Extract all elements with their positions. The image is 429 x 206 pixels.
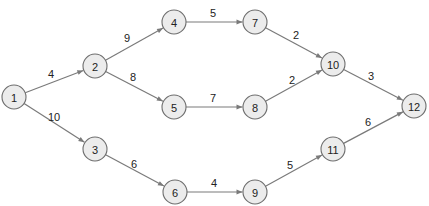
node-label: 2 [92, 61, 98, 73]
node-11: 11 [321, 137, 345, 161]
edge-weight-label: 5 [210, 7, 216, 19]
edge-weight-label: 4 [211, 177, 217, 189]
edge-weight-label: 8 [130, 71, 136, 83]
node-10: 10 [321, 52, 345, 76]
node-label: 3 [92, 144, 98, 156]
edge-2-to-4-arrow [105, 28, 163, 60]
edge-weight-label: 6 [365, 116, 371, 128]
node-label: 8 [252, 102, 258, 114]
edge-weight-label: 9 [124, 32, 130, 44]
node-label: 10 [327, 59, 339, 71]
node-label: 12 [408, 101, 420, 113]
node-12: 12 [402, 94, 426, 118]
edge-1-to-2-arrow [25, 70, 83, 92]
node-label: 4 [171, 17, 177, 29]
edge-11-to-12-arrow [344, 112, 403, 144]
node-4: 4 [162, 10, 186, 34]
edge-weight-label: 2 [293, 29, 299, 41]
node-label: 11 [327, 144, 338, 156]
node-7: 7 [243, 10, 267, 34]
edge-weight-label: 5 [287, 159, 293, 171]
node-label: 9 [252, 187, 258, 199]
node-label: 6 [172, 187, 178, 199]
network-diagram: 41098657422356 123456789101112 [0, 0, 429, 206]
edge-labels-group: 41098657422356 [48, 7, 374, 189]
node-8: 8 [243, 95, 267, 119]
edge-weight-label: 7 [210, 92, 216, 104]
node-label: 7 [252, 17, 258, 29]
node-5: 5 [162, 95, 186, 119]
node-3: 3 [83, 137, 107, 161]
edges-group [24, 22, 403, 192]
edge-weight-label: 10 [48, 111, 60, 123]
edge-weight-label: 2 [289, 74, 295, 86]
node-9: 9 [243, 180, 267, 204]
node-label: 5 [171, 102, 177, 114]
node-2: 2 [83, 54, 107, 78]
node-6: 6 [163, 180, 187, 204]
edge-9-to-11-arrow [266, 155, 323, 186]
node-1: 1 [2, 85, 26, 109]
edge-weight-label: 4 [48, 68, 54, 80]
edge-weight-label: 6 [131, 158, 137, 170]
edge-weight-label: 3 [368, 70, 374, 82]
node-label: 1 [11, 92, 17, 104]
